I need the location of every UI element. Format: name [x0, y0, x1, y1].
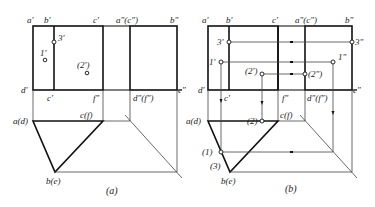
point-2-dprime-b — [303, 72, 307, 76]
label-ad-b: a(d) — [186, 116, 201, 126]
point-3-prime-a — [52, 40, 56, 44]
point-2-prime-b — [260, 72, 264, 76]
caption-a: (a) — [106, 185, 118, 197]
label-point-1-top-b: (1) — [202, 147, 213, 157]
label-point-1-b: 1' — [209, 57, 217, 67]
label-point-1-dprime-b: 1" — [338, 52, 347, 62]
label-a2c2: a"(c") — [116, 15, 138, 25]
label-d-prime-b: d' — [198, 85, 206, 95]
point-1-prime-b — [219, 60, 223, 64]
label-cf-b: c(f) — [280, 110, 293, 120]
panel-b: a' b' c' a"(c") b" 3' 3" 1' 1" (2') (2")… — [186, 15, 364, 195]
point-2-top-b — [260, 119, 264, 123]
label-point-3-b: 3' — [216, 37, 225, 47]
label-c-prime: c' — [93, 15, 100, 25]
projection-diagram: a' b' c' a"(c") b" 3' 1' (2') d' c' f" d… — [0, 0, 375, 207]
label-point-2-b: (2') — [245, 66, 257, 76]
caption-b: (b) — [285, 183, 297, 195]
label-point-3-top-b: (3) — [210, 161, 221, 171]
label-point-3-dprime-b: 3" — [354, 37, 364, 47]
label-c-prime-low-b: c' — [224, 93, 231, 103]
label-d-prime: d' — [21, 85, 29, 95]
label-d2f2: d"(f") — [133, 93, 154, 103]
label-point-2-top-b: (2) — [247, 116, 258, 126]
label-c-prime-b: c' — [272, 15, 279, 25]
label-b2: b" — [170, 15, 179, 25]
top-view-triangle-a — [33, 121, 103, 172]
panel-a: a' b' c' a"(c") b" 3' 1' (2') d' c' f" d… — [13, 15, 186, 197]
label-b2-b: b" — [345, 15, 354, 25]
front-view-outline-a — [33, 26, 103, 90]
label-a-prime: a' — [27, 15, 35, 25]
point-1-prime-a — [43, 58, 47, 62]
point-1-dprime-b — [331, 60, 335, 64]
label-c-prime-low: c' — [47, 93, 54, 103]
front-view-outline-b — [208, 26, 278, 90]
label-point-2: (2') — [77, 60, 89, 70]
label-be-b: b(e) — [221, 176, 236, 186]
point-3-dprime-b — [350, 40, 354, 44]
label-b-prime: b' — [44, 15, 52, 25]
label-a2c2-b: a"(c") — [295, 15, 317, 25]
label-be: b(e) — [46, 176, 61, 186]
label-f2-b: f" — [282, 93, 289, 103]
label-e2: e" — [178, 85, 186, 95]
miter-line-a — [125, 115, 182, 178]
label-e2-b: e" — [353, 85, 361, 95]
label-b-prime-b: b' — [226, 15, 234, 25]
label-point-3: 3' — [57, 33, 66, 43]
point-2-prime-a — [85, 71, 89, 75]
label-point-1: 1' — [40, 48, 48, 58]
label-cf: c(f) — [80, 110, 93, 120]
point-1-top-b — [219, 150, 223, 154]
point-3-prime-b — [227, 40, 231, 44]
label-f2: f" — [93, 93, 100, 103]
label-point-2-dprime-b: (2") — [308, 69, 322, 79]
side-view-outline-a — [130, 26, 177, 90]
label-a-prime-b: a' — [202, 15, 210, 25]
label-d2f2-b: d"(f") — [307, 93, 328, 103]
label-ad: a(d) — [13, 116, 28, 126]
miter-line-b — [300, 115, 357, 178]
